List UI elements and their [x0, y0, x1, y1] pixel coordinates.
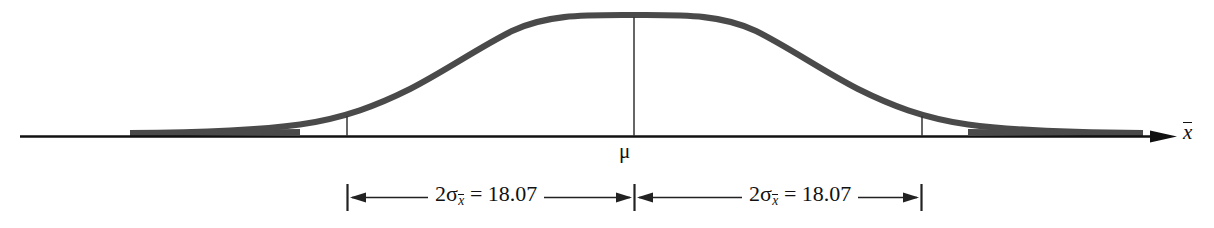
normal-curve: [130, 15, 1143, 133]
bracket-left-sigma: σ: [446, 181, 458, 206]
bracket-left-equals: =: [470, 181, 482, 206]
bracket-right-value: 18.07: [802, 181, 852, 206]
bracket-right-coefficient: 2: [749, 181, 760, 206]
x-bar-axis-label: x: [1183, 122, 1192, 143]
axis-arrowhead: [1150, 131, 1177, 143]
mu-label: μ: [619, 141, 630, 162]
distribution-drawing: [0, 0, 1214, 228]
x-bar-axis-label-text: x: [1183, 122, 1192, 143]
bracket-label-left: 2σx = 18.07: [428, 183, 544, 208]
bracket-right-equals: =: [784, 181, 796, 206]
bracket-left-coefficient: 2: [435, 181, 446, 206]
bracket-arrow-left-start: [350, 193, 366, 203]
bracket-arrow-left-end: [616, 193, 632, 203]
bracket-left-subscript: x: [458, 193, 464, 208]
bracket-arrow-right-start: [637, 193, 653, 203]
bracket-right-sigma: σ: [760, 181, 772, 206]
bracket-arrow-right-end: [903, 193, 919, 203]
curve-right-tail: [968, 132, 1143, 133]
normal-distribution-figure: μ x 2σx = 18.07 2σx = 18.07: [0, 0, 1214, 228]
bracket-left-value: 18.07: [488, 181, 538, 206]
curve-left-tail: [130, 132, 300, 133]
bracket-label-right: 2σx = 18.07: [742, 183, 858, 208]
bracket-right-subscript: x: [772, 193, 778, 208]
